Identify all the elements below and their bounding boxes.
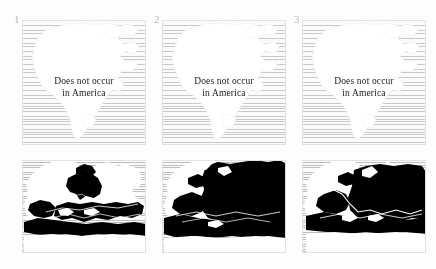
distribution-map-figure: 1 Does not occur in America	[0, 0, 436, 269]
north-america-landmass	[162, 20, 286, 145]
panel-3-bottom-map	[302, 160, 426, 253]
map-column-1: 1 Does not occur in America	[8, 0, 146, 269]
panel-number-3: 3	[294, 14, 300, 25]
panel-2-bottom-map	[162, 160, 286, 253]
europe-distribution-map	[22, 160, 146, 253]
panel-1-top-map: Does not occur in America	[22, 20, 146, 145]
north-america-landmass	[22, 20, 146, 145]
panel-2-top-map: Does not occur in America	[162, 20, 286, 145]
panel-1-bottom-map	[22, 160, 146, 253]
panel-number-2: 2	[154, 14, 160, 25]
map-column-3: 3 Does not occur in America	[288, 0, 426, 269]
panel-number-1: 1	[14, 14, 20, 25]
europe-distribution-map	[162, 160, 286, 253]
panel-3-top-map: Does not occur in America	[302, 20, 426, 145]
north-america-landmass	[302, 20, 426, 145]
europe-distribution-map	[302, 160, 426, 253]
map-column-2: 2 Does not occur in America	[148, 0, 286, 269]
